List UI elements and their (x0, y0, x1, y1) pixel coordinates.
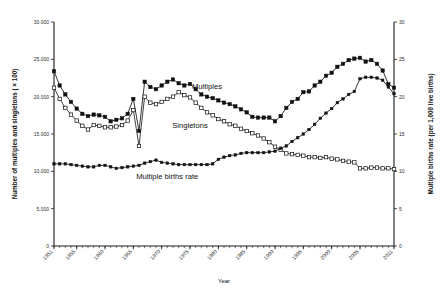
data-point (330, 107, 333, 110)
data-point (257, 151, 260, 154)
data-point (245, 151, 248, 154)
data-point (307, 155, 310, 158)
data-point (234, 154, 237, 157)
y-axis-right-ticks: 051015202530 (394, 19, 405, 249)
data-point (86, 128, 89, 131)
data-point (308, 128, 311, 131)
data-point (381, 79, 384, 82)
data-point (92, 166, 95, 169)
data-point (279, 147, 282, 150)
data-point (58, 97, 61, 100)
data-point (370, 76, 373, 79)
data-point (149, 101, 152, 104)
series-annotation-singletons: Singletons (172, 121, 208, 130)
data-point (324, 155, 327, 158)
data-point (223, 156, 226, 159)
data-point (98, 164, 101, 167)
y-axis-right-title: Multiple births rate (per 1,000 live bir… (427, 73, 435, 194)
data-point (115, 118, 118, 121)
data-point (285, 145, 288, 148)
data-point (211, 163, 214, 166)
data-point (256, 116, 259, 119)
data-point (149, 160, 152, 163)
data-point (262, 116, 265, 119)
y-tick-label-right: 0 (399, 243, 402, 249)
data-point (143, 80, 146, 83)
data-point (217, 158, 220, 161)
data-point (52, 70, 55, 73)
data-point (115, 167, 118, 170)
x-tick-label: 1951 (41, 248, 53, 260)
x-tick-label: 1995 (291, 248, 303, 260)
data-point (132, 165, 135, 168)
data-point (115, 125, 118, 128)
axes (54, 22, 394, 246)
data-point (75, 119, 78, 122)
data-point (155, 159, 158, 162)
data-point (217, 117, 220, 120)
data-point (358, 167, 361, 170)
data-point (126, 166, 129, 169)
data-point (206, 163, 209, 166)
data-point (319, 117, 322, 120)
data-point (392, 86, 395, 89)
data-point (194, 163, 197, 166)
data-point (228, 102, 231, 105)
x-axis-minor-ticks (54, 246, 394, 248)
data-point (262, 137, 265, 140)
data-point (313, 155, 316, 158)
data-point (69, 113, 72, 116)
data-point (330, 157, 333, 160)
y-tick-label-right: 15 (399, 131, 405, 137)
data-point (172, 163, 175, 166)
data-point (109, 126, 112, 129)
data-point (70, 163, 73, 166)
data-point (358, 56, 361, 59)
data-point (188, 96, 191, 99)
data-point (205, 111, 208, 114)
x-axis-ticks: 1951195519601965197019751980198519901995… (41, 246, 394, 261)
data-point (228, 123, 231, 126)
data-point (154, 88, 157, 91)
data-point (171, 78, 174, 81)
data-point (375, 166, 378, 169)
data-point (285, 152, 288, 155)
data-point (313, 84, 316, 87)
data-point (376, 77, 379, 80)
data-point (75, 164, 78, 167)
data-point (251, 132, 254, 135)
data-point (183, 93, 186, 96)
data-point (364, 76, 367, 79)
data-point (381, 69, 384, 72)
data-point (330, 71, 333, 74)
data-point (251, 151, 254, 154)
data-point (53, 163, 56, 166)
y-tick-label-right: 5 (399, 206, 402, 212)
data-point (121, 166, 124, 169)
data-point (75, 107, 78, 110)
data-point (319, 156, 322, 159)
data-point (302, 133, 305, 136)
data-point (166, 97, 169, 100)
data-point (239, 108, 242, 111)
x-tick-label: 2011 (382, 248, 394, 260)
data-point (92, 113, 95, 116)
data-point (302, 154, 305, 157)
data-point (160, 100, 163, 103)
data-point (81, 165, 84, 168)
data-point (239, 127, 242, 130)
data-point (109, 120, 112, 123)
data-point (387, 86, 390, 89)
data-point (336, 101, 339, 104)
data-point (336, 65, 339, 68)
data-point (217, 99, 220, 102)
data-point (353, 57, 356, 60)
data-point (364, 60, 367, 63)
data-point (324, 74, 327, 77)
data-point (58, 163, 61, 166)
data-point (120, 117, 123, 120)
y-tick-label-left: 30,000 (34, 19, 50, 25)
data-point (347, 160, 350, 163)
x-tick-label: 1970 (149, 248, 161, 260)
data-point (98, 114, 101, 117)
